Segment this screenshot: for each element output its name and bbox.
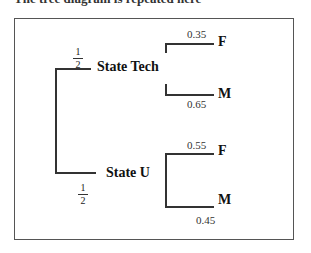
node-u-f: F [218, 143, 227, 159]
branch-line-tech-m [165, 94, 214, 96]
node-u-m: M [218, 192, 231, 208]
prob-state-u: 1 2 [78, 183, 88, 206]
node-tech-m: M [218, 86, 231, 102]
prob-tech-f: 0.35 [187, 28, 206, 40]
branch-line-u-m [165, 206, 214, 208]
prob-state-tech: 1 2 [73, 47, 83, 70]
branch-line-state-u [55, 172, 96, 174]
prob-tech-m: 0.65 [187, 98, 206, 110]
fork-vertical-state-tech [165, 43, 167, 53]
prob-u-m: 0.45 [196, 214, 215, 226]
node-state-tech: State Tech [97, 59, 159, 75]
root-vertical-line [55, 68, 57, 173]
node-tech-f: F [218, 34, 227, 50]
branch-line-u-f [165, 153, 214, 155]
fork-vertical-state-u [165, 153, 167, 207]
prob-u-f: 0.55 [187, 139, 206, 151]
node-state-u: State U [106, 165, 150, 181]
caption: The tree diagram is repeated here [14, 0, 201, 7]
branch-line-tech-f [165, 43, 214, 45]
